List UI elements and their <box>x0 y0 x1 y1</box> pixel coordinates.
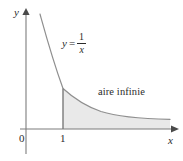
x-axis-label: x <box>168 135 173 146</box>
y-axis-arrow-icon <box>22 8 29 15</box>
plot-svg <box>0 0 183 161</box>
equation-relation: = <box>69 38 75 49</box>
origin-tick-label: 0 <box>19 133 25 144</box>
x-tick-label-one: 1 <box>60 133 66 144</box>
equation-lhs: y <box>62 38 67 49</box>
equation-denominator: x <box>77 44 85 55</box>
shaded-region-label: aire infinie <box>98 87 145 98</box>
x-axis-arrow-icon <box>171 125 179 132</box>
curve-equation-label: y = 1 x <box>62 32 86 55</box>
curve-one-over-x <box>40 14 170 119</box>
y-axis-label: y <box>14 7 19 18</box>
equation-numerator: 1 <box>77 32 86 43</box>
equation-fraction: 1 x <box>77 32 86 55</box>
figure-canvas: y x 0 1 aire infinie y = 1 x <box>0 0 183 161</box>
